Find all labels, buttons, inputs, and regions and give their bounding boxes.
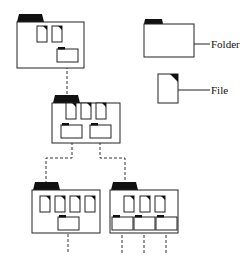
file-icon (40, 196, 50, 212)
file-icon (81, 103, 91, 119)
subfolder-icon (90, 123, 111, 138)
folder-tab (17, 14, 44, 22)
file-icon (85, 196, 95, 212)
level2-folder[interactable] (52, 95, 120, 143)
legend-folder-icon: Folder (144, 19, 240, 57)
file-icon (140, 196, 150, 212)
file-icon (70, 196, 80, 212)
subfolder-icon (134, 215, 155, 230)
file-icon (37, 26, 47, 42)
file-icon (52, 26, 62, 42)
legend-file-label: File (211, 84, 228, 96)
subfolder-icon (57, 47, 78, 62)
legend-file-icon: File (158, 74, 228, 103)
legend-folder-label: Folder (211, 38, 240, 50)
subfolder-icon (58, 215, 79, 230)
file-icon (124, 196, 134, 212)
level3-left-folder[interactable] (32, 182, 100, 233)
subfolder-icon (156, 215, 177, 230)
file-icon (66, 103, 76, 119)
folder-tab (33, 182, 60, 190)
folder-hierarchy-diagram: Folder File (0, 0, 248, 263)
folder-tab (53, 95, 80, 103)
subfolder-icon (112, 215, 133, 230)
folder-tab (111, 182, 138, 190)
file-icon (155, 196, 165, 212)
root-folder[interactable] (17, 14, 84, 68)
file-icon (96, 103, 106, 119)
legend: Folder File (144, 19, 240, 103)
file-icon (55, 196, 65, 212)
level3-right-folder[interactable] (110, 182, 178, 233)
subfolder-icon (61, 123, 82, 138)
